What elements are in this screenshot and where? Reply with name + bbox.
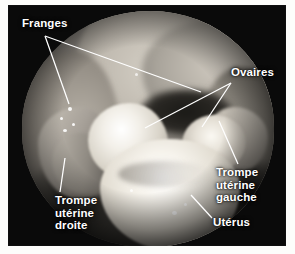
specular-highlight: [184, 203, 187, 206]
label-franges: Franges: [22, 17, 67, 30]
label-ovaires: Ovaires: [231, 66, 274, 79]
specular-highlight: [130, 189, 133, 192]
label-trompe-uterine-droite: Trompe utérine droite: [55, 194, 97, 232]
specular-highlight: [135, 73, 138, 76]
specular-highlight: [172, 211, 177, 215]
anatomy-figure: Franges Ovaires Trompe utérine gauche Tr…: [0, 0, 295, 254]
specular-highlight: [68, 107, 72, 111]
specular-highlight: [60, 117, 63, 120]
photograph-plate: [8, 5, 286, 246]
specular-highlight: [72, 123, 75, 126]
label-uterus: Utérus: [213, 216, 250, 229]
anatomy-uterus-fold: [118, 161, 210, 187]
specular-highlight: [63, 129, 67, 132]
label-trompe-uterine-gauche: Trompe utérine gauche: [216, 166, 258, 204]
